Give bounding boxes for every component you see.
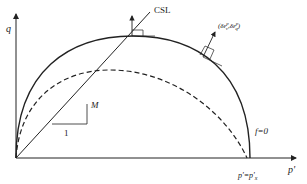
yield-surface-label: f=0 xyxy=(255,126,269,136)
yield-surface-diagram: q p' CSL M 1 f=0 p'=p'x (δεpv,δεpq) xyxy=(0,0,307,184)
right-angle-marker-top xyxy=(132,30,143,36)
q-axis-label: q xyxy=(6,23,11,34)
critical-state-line xyxy=(16,12,150,158)
p-axis-label: p' xyxy=(287,164,296,175)
inner-surface-dashed-curve xyxy=(16,70,247,158)
slope-label-m: M xyxy=(90,100,99,110)
slope-run-label: 1 xyxy=(64,128,69,138)
csl-label: CSL xyxy=(154,5,171,15)
intercept-label: p'=p'x xyxy=(237,171,258,181)
tangent-right xyxy=(203,57,222,66)
plastic-strain-vector xyxy=(203,32,215,57)
slope-triangle xyxy=(52,104,87,124)
strain-increment-label: (δεpv,δεpq) xyxy=(218,21,241,31)
yield-surface-curve xyxy=(16,36,250,158)
